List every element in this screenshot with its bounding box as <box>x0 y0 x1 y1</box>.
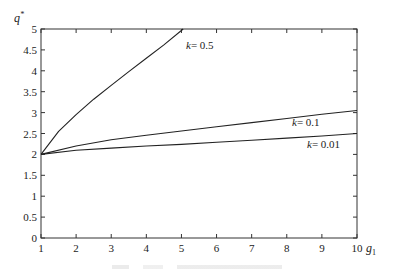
x-tick-label: 2 <box>73 242 79 254</box>
y-tick-label: 1.5 <box>23 169 37 181</box>
x-tick-label: 8 <box>284 242 290 254</box>
y-tick-label: 3.5 <box>23 86 37 98</box>
y-tick-label: 4.5 <box>23 44 37 56</box>
x-tick-label: 4 <box>144 242 150 254</box>
y-tick-label: 1 <box>32 190 38 202</box>
x-tick-label: 5 <box>179 242 185 254</box>
y-axis-label: q* <box>14 10 24 25</box>
series-label-k01: k= 0.1 <box>292 116 320 128</box>
series-label-k05: k= 0.5 <box>186 39 214 51</box>
y-axis-ticks: 00.511.522.533.544.55 <box>23 23 357 244</box>
y-tick-label: 4 <box>32 65 38 77</box>
plot-frame <box>41 29 357 238</box>
series-label-k001: k= 0.01 <box>307 138 340 150</box>
y-tick-label: 3 <box>32 107 38 119</box>
x-tick-label: 3 <box>108 242 114 254</box>
x-tick-label: 9 <box>319 242 325 254</box>
y-tick-label: 0 <box>32 232 38 244</box>
x-tick-label: 10 <box>352 242 364 254</box>
y-tick-label: 2 <box>32 148 38 160</box>
x-axis-label: g1 <box>366 241 376 257</box>
series-line-0 <box>41 29 183 154</box>
line-chart: 12345678910 00.511.522.533.544.55 q* g1 … <box>0 0 394 274</box>
figure-caption-faded <box>112 265 282 269</box>
y-tick-label: 2.5 <box>23 128 37 140</box>
x-tick-label: 6 <box>214 242 220 254</box>
y-tick-label: 5 <box>32 23 38 35</box>
x-tick-label: 1 <box>38 242 44 254</box>
y-tick-label: 0.5 <box>23 211 37 223</box>
x-tick-label: 7 <box>249 242 255 254</box>
